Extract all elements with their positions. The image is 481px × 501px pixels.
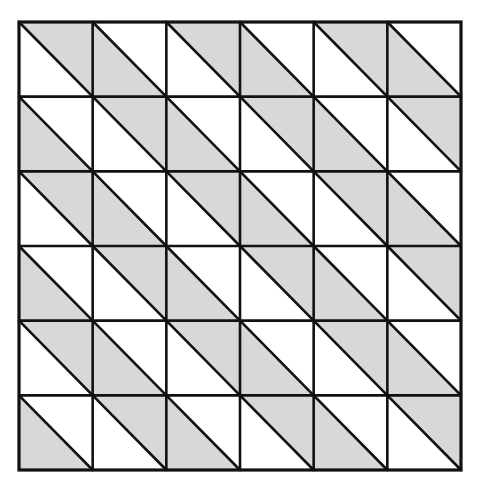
triangle-grid-diagram <box>0 0 481 501</box>
